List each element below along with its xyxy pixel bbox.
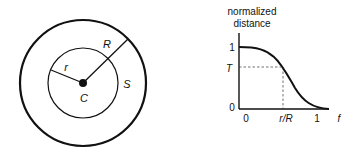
y-tick-1: 1 [229,42,235,53]
x-axis-label: f [338,113,342,124]
circle-diagram: r R C S [20,20,146,146]
region-label: S [123,78,131,90]
curve [239,47,329,109]
x-tick-1: 1 [314,113,320,124]
y-axis-label-line2: distance [233,18,271,29]
center-point [79,79,87,87]
center-label: C [80,92,88,104]
outer-radius-label: R [103,38,111,50]
inner-radius-label: r [64,61,69,73]
y-axis-label-line1: normalized [228,6,277,17]
y-tick-t: T [226,63,233,74]
distance-chart: normalized distance 1 T 0 0 r/R 1 f [226,6,342,124]
x-tick-0: 0 [243,113,249,124]
y-tick-0: 0 [229,102,235,113]
x-tick-rR: r/R [279,113,292,124]
figure: r R C S normalized distance 1 T 0 0 r/R … [0,0,361,154]
